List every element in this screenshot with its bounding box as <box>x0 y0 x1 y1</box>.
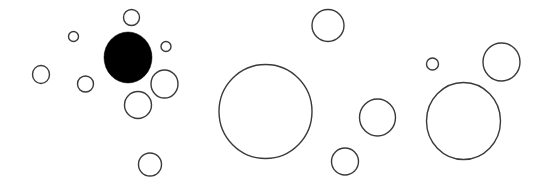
outline-circle <box>78 76 94 92</box>
outline-circle <box>69 32 79 42</box>
outline-circle <box>219 65 312 159</box>
outline-circle <box>124 10 140 26</box>
outline-circle <box>139 153 162 176</box>
outline-circle <box>427 83 501 160</box>
outline-circle <box>151 70 178 98</box>
outline-circle <box>483 43 520 81</box>
outline-circle <box>33 66 50 84</box>
outline-circle <box>332 148 359 175</box>
circle-field <box>0 0 549 188</box>
outline-circle <box>312 10 344 42</box>
outline-circle <box>125 92 152 119</box>
outline-circle <box>360 99 396 136</box>
outline-circle <box>161 42 171 52</box>
filled-circle <box>104 32 152 83</box>
outline-circle <box>427 58 439 70</box>
